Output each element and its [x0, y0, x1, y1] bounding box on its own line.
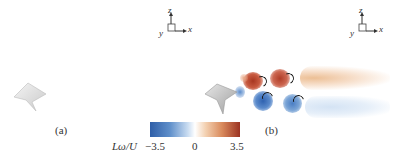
axis-triad-b: z x y — [349, 8, 389, 40]
axis-label-z: z — [359, 5, 363, 15]
panel-label-a: (a) — [55, 124, 67, 136]
colorbar-title-suffix: /U — [126, 140, 137, 152]
axis-arrows-icon — [158, 8, 198, 40]
colorbar-mid-label: 0 — [192, 140, 198, 152]
colorbar-title: Lω/U — [112, 140, 137, 152]
axis-label-x: x — [379, 24, 383, 34]
axis-arrows-icon — [349, 8, 389, 40]
panel-label-b: (b) — [265, 124, 278, 136]
axis-label-y: y — [159, 28, 163, 38]
colorbar-title-main: Lω — [112, 140, 126, 152]
body-shape-b — [203, 80, 239, 116]
axis-label-y: y — [350, 28, 354, 38]
wake-negative-vorticity — [305, 96, 390, 118]
wake-positive-vorticity — [300, 66, 390, 90]
colorbar-max-label: 3.5 — [230, 140, 244, 152]
axis-label-x: x — [188, 24, 192, 34]
body-shape-a — [12, 78, 48, 112]
shear-layer-positive — [240, 74, 248, 82]
axis-label-z: z — [168, 5, 172, 15]
axis-triad-a: z x y — [158, 8, 198, 40]
colorbar-min-label: −3.5 — [145, 140, 165, 152]
colorbar-gradient — [150, 122, 240, 137]
